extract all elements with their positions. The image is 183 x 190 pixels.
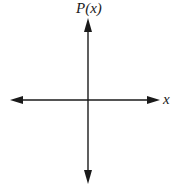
y-axis-up-arrow-icon (84, 18, 92, 32)
x-axis-label: x (163, 92, 170, 107)
y-axis-label: P(x) (76, 1, 102, 16)
x-axis-right-arrow-icon (147, 96, 160, 104)
y-axis-down-arrow-icon (84, 170, 92, 184)
x-axis-left-arrow-icon (10, 96, 23, 104)
coordinate-plane (0, 0, 183, 190)
